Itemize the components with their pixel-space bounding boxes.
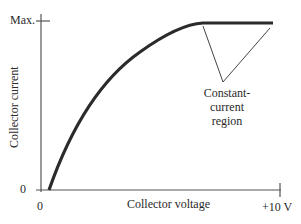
annotation-line-1: Constant- [196,86,258,100]
constant-current-annotation: Constant- current region [196,86,258,128]
x-axis-title: Collector voltage [127,198,210,211]
y-zero-label: 0 [20,183,26,196]
x-max-label: +10 V [262,201,292,214]
annotation-pointer-left [203,26,223,82]
y-max-label: Max. [10,14,35,27]
annotation-pointer-right [223,28,270,82]
y-axis-title: Collector current [7,66,22,148]
x-zero-label: 0 [37,200,43,213]
annotation-line-2: current region [196,100,258,128]
